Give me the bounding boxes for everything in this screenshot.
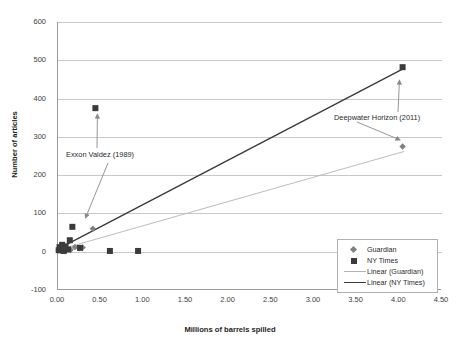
legend-label-guardian: Guardian [367, 244, 397, 255]
x-axis-tick-label: 0.00 [35, 296, 79, 304]
y-axis-tick-label: 600 [0, 18, 46, 26]
y-axis-tick-label: 0 [0, 248, 46, 256]
x-axis-tick-label: 1.50 [163, 296, 207, 304]
legend-item-guardian: Guardian [343, 244, 433, 255]
x-axis-title: Millions of barrels spilled [0, 325, 460, 334]
y-axis-tick-label: 300 [0, 133, 46, 141]
diamond-marker-icon [343, 244, 367, 255]
x-axis-tick-label: 2.00 [206, 296, 250, 304]
y-axis-tick-label: 400 [0, 95, 46, 103]
dark-line-icon [343, 277, 367, 288]
gridline [58, 22, 442, 23]
annotation-deepwater-horizon: Deepwater Horizon (2011) [334, 113, 420, 122]
annotation-exxon-valdez: Exxon Valdez (1989) [66, 150, 134, 159]
x-axis-tick-label: 3.50 [334, 296, 378, 304]
y-axis-tick-label: -100 [0, 286, 46, 294]
legend-label-linear-guardian: Linear (Guardian) [367, 266, 423, 277]
legend-label-ny-times: NY Times [367, 255, 398, 266]
legend-item-linear-ny-times: Linear (NY Times) [343, 277, 433, 288]
y-axis-tick-label: 100 [0, 209, 46, 217]
x-axis-tick-label: 3.00 [291, 296, 335, 304]
scatter-chart: -1000100200300400500600 0.000.501.001.50… [0, 0, 460, 347]
gridline [58, 213, 442, 214]
y-axis-tick-label: 200 [0, 171, 46, 179]
y-axis-tick-label: 500 [0, 56, 46, 64]
x-axis-tick-label: 4.00 [376, 296, 420, 304]
x-axis-tick-label: 2.50 [248, 296, 292, 304]
y-axis-title: Number of articles [10, 90, 19, 200]
gridline [58, 99, 442, 100]
gridline [58, 60, 442, 61]
square-marker-icon [343, 255, 367, 266]
x-axis-tick-label: 0.50 [78, 296, 122, 304]
legend-item-linear-guardian: Linear (Guardian) [343, 266, 433, 277]
chart-legend: Guardian NY Times Linear (Guardian) Line… [337, 239, 438, 293]
legend-item-ny-times: NY Times [343, 255, 433, 266]
gridline [58, 175, 442, 176]
legend-label-linear-ny-times: Linear (NY Times) [367, 277, 425, 288]
light-line-icon [343, 266, 367, 277]
x-axis-tick-label: 1.00 [120, 296, 164, 304]
gridline [58, 137, 442, 138]
x-axis-tick-label: 4.50 [419, 296, 460, 304]
